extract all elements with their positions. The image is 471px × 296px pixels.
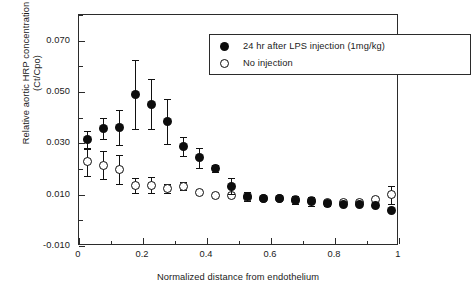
- error-bar-cap: [228, 194, 235, 195]
- x-tick-minor: [303, 241, 304, 245]
- data-point-no-injection: [179, 182, 188, 191]
- data-point-lps: [371, 201, 380, 210]
- data-point-no-injection: [147, 181, 156, 190]
- error-bar-cap: [100, 139, 107, 140]
- data-point-lps: [227, 182, 236, 191]
- data-point-no-injection: [131, 181, 140, 190]
- y-tick-label: -0.010: [26, 240, 70, 250]
- error-bar-cap: [132, 129, 139, 130]
- x-tick-minor: [367, 241, 368, 245]
- error-bar-cap: [164, 144, 171, 145]
- error-bar-cap: [180, 137, 187, 138]
- legend-item-label: 24 hr after LPS injection (1mg/kg): [243, 41, 385, 51]
- y-tick-mark: [79, 143, 85, 144]
- x-tick-label: 0.4: [186, 249, 226, 259]
- error-bar-cap: [244, 201, 251, 202]
- data-point-lps: [243, 192, 252, 201]
- data-point-lps: [339, 200, 348, 209]
- y-tick-minor: [79, 220, 83, 221]
- data-point-lps: [275, 194, 284, 203]
- x-tick-mark: [335, 238, 336, 244]
- x-tick-label: 0: [58, 249, 98, 259]
- data-point-no-injection: [115, 165, 124, 174]
- error-bar-cap: [148, 129, 155, 130]
- error-bar-cap: [132, 193, 139, 194]
- data-point-lps: [323, 199, 332, 208]
- error-bar-cap: [116, 184, 123, 185]
- y-tick-mark: [79, 246, 85, 247]
- x-tick-label: 0.8: [314, 249, 354, 259]
- data-point-lps: [211, 164, 220, 173]
- error-bar-cap: [164, 193, 171, 194]
- data-point-no-injection: [83, 157, 92, 166]
- plot-area: 24 hr after LPS injection (1mg/kg) No in…: [78, 14, 398, 245]
- data-point-lps: [147, 100, 156, 109]
- error-bar-cap: [132, 178, 139, 179]
- data-point-lps: [115, 123, 124, 132]
- error-bar-cap: [116, 155, 123, 156]
- data-point-lps: [387, 206, 396, 215]
- y-tick-minor: [79, 66, 83, 67]
- data-point-lps: [163, 117, 172, 126]
- x-axis-title: Normalized distance from endothelium: [78, 272, 398, 282]
- error-bar-cap: [84, 131, 91, 132]
- x-tick-label: 0.2: [122, 249, 162, 259]
- data-point-lps: [355, 200, 364, 209]
- error-bar-cap: [388, 186, 395, 187]
- x-tick-mark: [79, 238, 80, 244]
- open-circle-icon: [220, 59, 229, 68]
- data-point-no-injection: [99, 161, 108, 170]
- error-bar-cap: [84, 176, 91, 177]
- filled-circle-icon: [220, 42, 229, 51]
- error-bar-cap: [100, 118, 107, 119]
- data-point-lps: [83, 135, 92, 144]
- data-point-lps: [179, 142, 188, 151]
- data-point-lps: [99, 124, 108, 133]
- data-point-lps: [291, 196, 300, 205]
- x-tick-mark: [399, 238, 400, 244]
- data-point-no-injection: [163, 184, 172, 193]
- error-bar-cap: [116, 110, 123, 111]
- y-tick-minor: [79, 169, 83, 170]
- data-point-no-injection: [211, 191, 220, 200]
- error-bar-cap: [132, 60, 139, 61]
- error-bar-cap: [308, 206, 315, 207]
- y-tick-label: 0.010: [26, 189, 70, 199]
- y-tick-label: 0.050: [26, 86, 70, 96]
- error-bar-cap: [100, 151, 107, 152]
- error-bar-cap: [148, 177, 155, 178]
- x-tick-minor: [175, 241, 176, 245]
- error-bar-cap: [228, 178, 235, 179]
- error-bar-cap: [196, 148, 203, 149]
- x-tick-mark: [271, 238, 272, 244]
- x-tick-mark: [207, 238, 208, 244]
- data-point-lps: [131, 90, 140, 99]
- error-bar-cap: [388, 204, 395, 205]
- legend-item-label: No injection: [243, 58, 293, 68]
- legend-item-no-injection: No injection: [220, 56, 293, 70]
- x-tick-label: 0.6: [250, 249, 290, 259]
- error-bar-cap: [116, 145, 123, 146]
- x-tick-minor: [239, 241, 240, 245]
- error-bar-cap: [84, 149, 91, 150]
- error-bar-cap: [164, 99, 171, 100]
- chart-legend: 24 hr after LPS injection (1mg/kg) No in…: [209, 34, 471, 75]
- error-bar-cap: [100, 179, 107, 180]
- y-tick-label: 0.070: [26, 35, 70, 45]
- y-tick-mark: [79, 195, 85, 196]
- data-point-no-injection: [387, 190, 396, 199]
- data-point-lps: [195, 153, 204, 162]
- y-tick-label: 0.030: [26, 137, 70, 147]
- error-bar-cap: [148, 193, 155, 194]
- legend-item-lps: 24 hr after LPS injection (1mg/kg): [220, 39, 385, 53]
- x-tick-minor: [111, 241, 112, 245]
- error-bar-cap: [148, 79, 155, 80]
- y-tick-mark: [79, 92, 85, 93]
- x-tick-mark: [143, 238, 144, 244]
- y-tick-mark: [79, 41, 85, 42]
- data-point-lps: [307, 197, 316, 206]
- data-point-no-injection: [195, 188, 204, 197]
- y-tick-minor: [79, 15, 83, 16]
- error-bar-cap: [180, 156, 187, 157]
- x-tick-label: 1: [378, 249, 418, 259]
